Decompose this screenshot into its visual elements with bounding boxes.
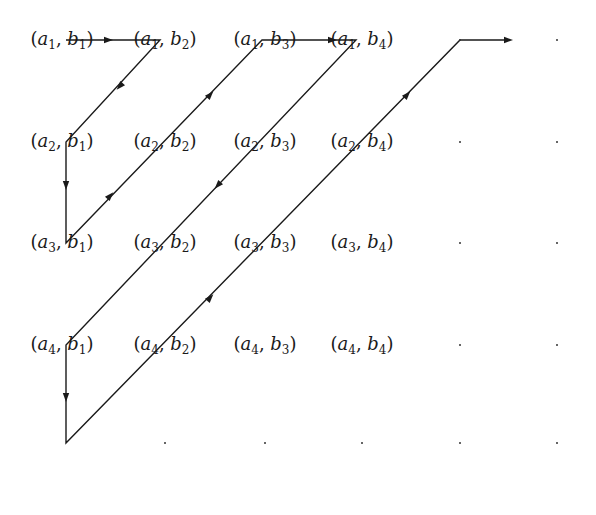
ellipsis-dot	[164, 442, 166, 444]
ellipsis-dot	[556, 344, 558, 346]
pair-cell: (a3, b3)	[233, 233, 296, 254]
pair-cell: (a1, b2)	[133, 30, 196, 51]
arrow-head-icon	[104, 37, 113, 43]
ellipsis-dot	[556, 242, 558, 244]
ellipsis-dot	[459, 442, 461, 444]
arrow-head-icon	[205, 89, 216, 100]
pair-cell: (a3, b1)	[30, 233, 93, 254]
pair-cell: (a1, b1)	[30, 30, 93, 51]
arrow-head-icon	[63, 181, 69, 190]
pair-cell: (a3, b4)	[330, 233, 393, 254]
ellipsis-dot	[264, 442, 266, 444]
ellipsis-dot	[556, 141, 558, 143]
pair-cell: (a1, b4)	[330, 30, 393, 51]
pair-cell: (a4, b1)	[30, 335, 93, 356]
arrow-head-icon	[504, 37, 513, 43]
ellipsis-dot	[556, 442, 558, 444]
cantor-enumeration-diagram: (a1, b1)(a1, b2)(a1, b3)(a1, b4)(a2, b1)…	[0, 0, 596, 515]
pair-cell: (a4, b3)	[233, 335, 296, 356]
enumeration-path	[0, 0, 596, 515]
pair-cell: (a1, b3)	[233, 30, 296, 51]
arrow-head-icon	[205, 292, 216, 303]
ellipsis-dot	[361, 442, 363, 444]
pair-cell: (a4, b2)	[133, 335, 196, 356]
pair-cell: (a2, b4)	[330, 132, 393, 153]
ellipsis-dot	[459, 344, 461, 346]
arrow-head-icon	[114, 81, 125, 92]
pair-cell: (a2, b2)	[133, 132, 196, 153]
ellipsis-dot	[459, 39, 461, 41]
pair-cell: (a2, b3)	[233, 132, 296, 153]
pair-cell: (a4, b4)	[330, 335, 393, 356]
ellipsis-dot	[459, 242, 461, 244]
ellipsis-dot	[459, 141, 461, 143]
arrow-head-icon	[63, 393, 69, 402]
arrow-head-icon	[105, 190, 116, 201]
ellipsis-dot	[556, 39, 558, 41]
pair-cell: (a3, b2)	[133, 233, 196, 254]
pair-cell: (a2, b1)	[30, 132, 93, 153]
